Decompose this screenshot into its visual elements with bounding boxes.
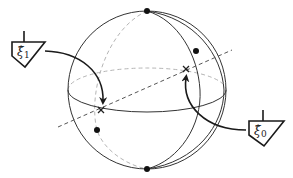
sphere-outline bbox=[68, 11, 226, 169]
meridian-point-lower-left-dot bbox=[94, 127, 100, 133]
axis-dashed-line bbox=[58, 50, 232, 127]
xi1-label-box: ξ̂ 1 bbox=[12, 31, 45, 67]
xi1-label-subscript: 1 bbox=[24, 50, 30, 60]
south-pole-dot bbox=[144, 166, 150, 172]
north-pole-dot bbox=[144, 8, 150, 14]
equator-front-arc bbox=[68, 90, 226, 112]
xi0-label-subscript: 0 bbox=[261, 129, 267, 139]
equator-back-arc bbox=[68, 68, 226, 90]
xi0-label-box: ξ̂ 0 bbox=[249, 110, 284, 146]
meridian-front-inner-arc bbox=[147, 11, 200, 169]
meridian-point-upper-right-dot bbox=[193, 48, 199, 54]
bloch-sphere-diagram: ξ̂ 1 ξ̂ 0 bbox=[0, 0, 293, 178]
